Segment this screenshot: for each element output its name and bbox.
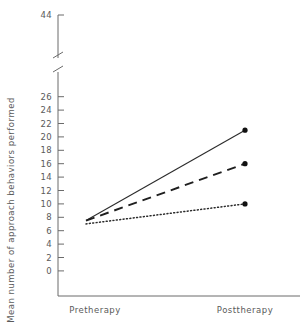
y-tick-label-44: 44: [40, 10, 52, 20]
chart-canvas: Mean number of approach behaviors perfor…: [0, 0, 308, 335]
y-tick-label-18: 18: [40, 145, 52, 155]
y-tick-label-24: 24: [40, 105, 52, 115]
y-tick-label-20: 20: [40, 132, 52, 142]
y-tick-label-0: 0: [46, 266, 52, 276]
series-line-dashed: [86, 164, 245, 221]
y-tick-label-2: 2: [46, 253, 52, 263]
y-tick-label-26: 26: [40, 92, 52, 102]
y-tick-label-4: 4: [46, 239, 52, 249]
x-tick-label-pretherapy: Pretherapy: [69, 305, 121, 315]
series-endpoint-solid: [242, 128, 247, 133]
y-tick-label-22: 22: [40, 119, 52, 129]
y-tick-label-16: 16: [40, 159, 52, 169]
axis-break-icon-lower: [53, 66, 63, 72]
y-axis-title: Mean number of approach behaviors perfor…: [6, 97, 16, 323]
y-tick-label-8: 8: [46, 212, 52, 222]
series-endpoint-dotted: [242, 201, 247, 206]
y-tick-label-10: 10: [40, 199, 52, 209]
x-tick-label-posttherapy: Posttherapy: [217, 305, 273, 315]
series-endpoint-dashed: [242, 161, 247, 166]
y-tick-label-14: 14: [40, 172, 52, 182]
line-chart-figure: Mean number of approach behaviors perfor…: [0, 0, 308, 335]
y-tick-label-12: 12: [40, 186, 52, 196]
y-tick-label-6: 6: [46, 226, 52, 236]
